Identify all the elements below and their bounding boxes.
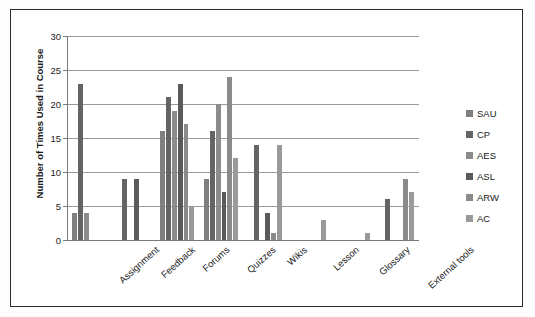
bar: [72, 213, 77, 240]
x-axis-label: External tools: [426, 244, 476, 291]
y-tick-label: 15: [50, 133, 61, 144]
chart-frame: Number of Times Used in Course 051015202…: [10, 9, 523, 307]
bar-group: [204, 36, 239, 240]
x-axis-label: Feedback: [159, 244, 197, 280]
bar: [204, 179, 209, 240]
bar: [84, 213, 89, 240]
bar: [271, 233, 276, 240]
bar: [403, 179, 408, 240]
legend-item: ARW: [466, 187, 526, 208]
y-tick-label: 30: [50, 31, 61, 42]
y-tick-label: 10: [50, 167, 61, 178]
legend-swatch-icon: [466, 110, 473, 117]
legend-label: SAU: [477, 108, 497, 119]
bar: [134, 179, 139, 240]
bar: [385, 199, 390, 240]
chart-figure: Number of Times Used in Course 051015202…: [0, 0, 535, 317]
bar-group: [292, 36, 327, 240]
bar: [233, 158, 238, 240]
y-tick-mark: [63, 206, 67, 207]
x-axis-label: Forums: [200, 244, 231, 274]
bar-group: [336, 36, 371, 240]
x-axis-label: Glossary: [377, 244, 412, 277]
legend-label: ASL: [477, 171, 495, 182]
y-tick-label: 0: [56, 235, 61, 246]
legend-swatch-icon: [466, 173, 473, 180]
legend-label: AC: [477, 213, 490, 224]
legend-item: AES: [466, 145, 526, 166]
x-axis-label: Wikis: [285, 244, 309, 267]
chart-legend: SAUCPAESASLARWAC: [466, 103, 526, 229]
legend-item: ASL: [466, 166, 526, 187]
bar-group: [380, 36, 415, 240]
legend-label: CP: [477, 129, 490, 140]
y-tick-label: 20: [50, 99, 61, 110]
legend-item: CP: [466, 124, 526, 145]
bar-group: [72, 36, 107, 240]
bar: [160, 131, 165, 240]
bar: [172, 111, 177, 240]
x-axis-label: Assignment: [117, 244, 161, 285]
bar: [222, 192, 227, 240]
legend-item: AC: [466, 208, 526, 229]
bar: [122, 179, 127, 240]
bar-group: [248, 36, 283, 240]
y-tick-label: 25: [50, 65, 61, 76]
x-axis-label: Quizzes: [244, 244, 277, 275]
bar: [265, 213, 270, 240]
bar: [78, 84, 83, 240]
y-tick-mark: [63, 70, 67, 71]
legend-swatch-icon: [466, 215, 473, 222]
legend-swatch-icon: [466, 131, 473, 138]
y-tick-mark: [63, 138, 67, 139]
bar: [210, 131, 215, 240]
bar: [365, 233, 370, 240]
bar: [277, 145, 282, 240]
bar-group: [160, 36, 195, 240]
bar-groups: [68, 36, 419, 240]
legend-label: ARW: [477, 192, 499, 203]
legend-swatch-icon: [466, 152, 473, 159]
bar: [178, 84, 183, 240]
bar-group: [116, 36, 151, 240]
legend-label: AES: [477, 150, 496, 161]
y-axis-title: Number of Times Used in Course: [34, 34, 45, 214]
bar: [166, 97, 171, 240]
x-axis-label: Lesson: [331, 244, 361, 273]
y-tick-mark: [63, 36, 67, 37]
legend-swatch-icon: [466, 194, 473, 201]
y-tick-mark: [63, 172, 67, 173]
plot-area: 051015202530 AssignmentFeedbackForumsQui…: [67, 36, 419, 241]
y-tick-label: 5: [56, 201, 61, 212]
bar: [409, 192, 414, 240]
y-tick-mark: [63, 240, 67, 241]
bar: [216, 104, 221, 240]
bar: [254, 145, 259, 240]
bar: [184, 124, 189, 240]
bar: [189, 206, 194, 240]
bar: [227, 77, 232, 240]
bar: [321, 220, 326, 240]
y-tick-mark: [63, 104, 67, 105]
legend-item: SAU: [466, 103, 526, 124]
